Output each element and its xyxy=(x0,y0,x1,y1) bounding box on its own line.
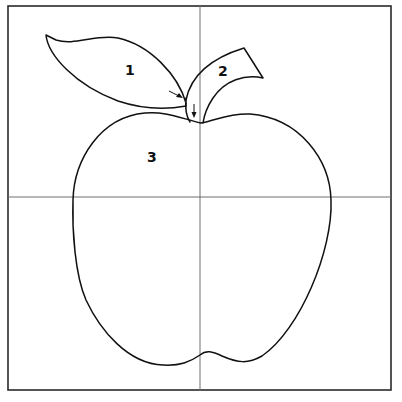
arrow-to-stem-base xyxy=(192,104,197,118)
region-label-1: 1 xyxy=(125,62,135,78)
leaf-left-outline xyxy=(46,35,186,108)
region-label-2: 2 xyxy=(218,63,228,79)
leaf-right-outline xyxy=(186,48,263,123)
apple-body-outline xyxy=(73,113,331,366)
diagram-canvas: 1 2 3 xyxy=(0,0,402,402)
region-label-3: 3 xyxy=(147,149,157,165)
apple-diagram: 1 2 3 xyxy=(0,0,402,402)
arrow-to-stem-side xyxy=(169,91,183,98)
